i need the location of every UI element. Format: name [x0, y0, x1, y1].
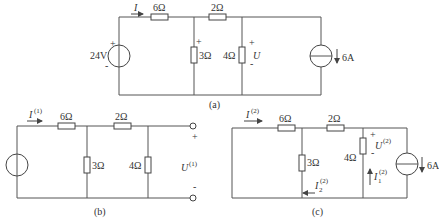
- plus-sign: +: [196, 36, 202, 47]
- resistor-3ohm: [191, 47, 197, 63]
- plus-sign: +: [192, 131, 198, 142]
- minus-sign: -: [193, 181, 196, 192]
- resistor-6ohm: [151, 14, 168, 20]
- label-2ohm: 2Ω: [328, 113, 340, 124]
- plus-sign: +: [110, 38, 116, 49]
- current-label: I: [133, 2, 138, 13]
- minus-sign: -: [371, 147, 374, 158]
- plus-sign: +: [249, 37, 255, 48]
- resistor-4ohm: [239, 47, 245, 63]
- voltage-label: U: [253, 50, 261, 61]
- circuit-figure: I 6Ω 2Ω 3Ω 4Ω 24V 6A U + - + + - (a) I (…: [0, 0, 439, 224]
- resistor-6ohm: [278, 125, 295, 131]
- label-2ohm: 2Ω: [211, 2, 223, 13]
- current-source-icon: [310, 45, 332, 67]
- caption-b: (b): [94, 206, 106, 218]
- resistor-4ohm: [145, 157, 151, 173]
- label-4ohm: 4Ω: [344, 152, 356, 163]
- circuit-diagrams: I 6Ω 2Ω 3Ω 4Ω 24V 6A U + - + + - (a) I (…: [0, 0, 439, 224]
- minus-sign: -: [105, 60, 108, 71]
- label-3ohm: 3Ω: [199, 50, 211, 61]
- terminal-minus: [190, 195, 196, 201]
- resistor-2ohm: [114, 123, 131, 129]
- voltage-label: U: [375, 140, 383, 151]
- minus-sign: -: [250, 58, 253, 69]
- resistor-6ohm: [58, 123, 75, 129]
- i2-superscript: (2): [320, 177, 329, 185]
- current-label: I: [245, 109, 250, 120]
- voltage-label: U: [181, 162, 189, 173]
- resistor-2ohm: [209, 14, 226, 20]
- i1-subscript: 1: [378, 177, 382, 185]
- label-6ohm: 6Ω: [279, 113, 291, 124]
- label-4ohm: 4Ω: [129, 160, 141, 171]
- current-superscript: (2): [251, 107, 260, 115]
- i1-superscript: (2): [379, 168, 388, 176]
- i2-subscript: 2: [319, 186, 323, 194]
- voltage-source-icon: [6, 154, 28, 176]
- label-4ohm: 4Ω: [223, 50, 235, 61]
- resistor-2ohm: [327, 125, 344, 131]
- label-6ohm: 6Ω: [60, 111, 72, 122]
- resistor-3ohm: [299, 155, 305, 171]
- resistor-3ohm: [84, 157, 90, 173]
- current-source-icon: [396, 153, 418, 175]
- voltage-superscript: (1): [189, 160, 198, 168]
- voltage-superscript: (2): [383, 137, 392, 145]
- label-3ohm: 3Ω: [92, 160, 104, 171]
- plus-sign: +: [370, 129, 376, 140]
- circuit-a: I 6Ω 2Ω 3Ω 4Ω 24V 6A U + - + + - (a): [90, 2, 355, 111]
- caption-a: (a): [209, 99, 220, 111]
- terminal-plus: [190, 123, 196, 129]
- caption-c: (c): [312, 206, 323, 218]
- label-6a: 6A: [427, 160, 439, 171]
- current-label: I: [28, 109, 33, 120]
- label-6a: 6A: [342, 52, 355, 63]
- circuit-c: I (2) 6Ω 2Ω 3Ω 4Ω 6A U (2) + - I 1 (2) I…: [232, 107, 439, 218]
- resistor-4ohm: [360, 138, 366, 154]
- label-3ohm: 3Ω: [307, 157, 319, 168]
- label-2ohm: 2Ω: [115, 111, 127, 122]
- label-6ohm: 6Ω: [153, 2, 165, 13]
- circuit-b: I (1) 6Ω 2Ω 3Ω 4Ω U (1) + - (b): [6, 107, 198, 218]
- current-superscript: (1): [34, 107, 43, 115]
